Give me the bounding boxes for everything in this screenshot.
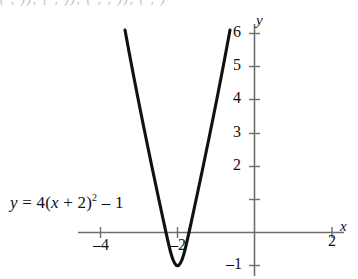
- y-axis-label: y: [256, 12, 263, 29]
- y-tick-label-3: 3: [228, 123, 246, 141]
- equation-inner-op: +: [63, 193, 73, 212]
- y-tick-label-minus1: –1: [220, 255, 248, 273]
- y-tick-label-5: 5: [228, 56, 246, 74]
- y-tick-label-6: 6: [228, 23, 246, 41]
- equation-inner-constant: 2: [77, 193, 86, 212]
- x-axis-label: x: [340, 218, 347, 235]
- equation-annotation: y = 4(x + 2)2 – 1: [10, 192, 124, 213]
- parabola-figure: ( , )), [ , )), ( , , )), ( , ) y x –4 –…: [0, 0, 358, 279]
- y-tick-label-4: 4: [228, 89, 246, 107]
- y-tick-label-2: 2: [228, 156, 246, 174]
- x-tick-label-minus4: –4: [88, 236, 114, 254]
- equation-inner-variable: x: [51, 193, 59, 212]
- equation-constant: 1: [115, 193, 124, 212]
- equation-lhs: y: [10, 193, 18, 212]
- equation-equals: =: [22, 193, 32, 212]
- x-tick-label-minus2: –2: [165, 236, 191, 254]
- equation-coefficient: 4: [36, 193, 45, 212]
- x-tick-label-2: 2: [323, 232, 341, 250]
